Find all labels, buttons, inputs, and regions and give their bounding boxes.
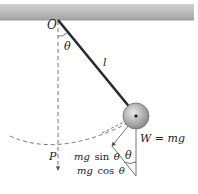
pendulum-string bbox=[58, 20, 136, 115]
pendulum-diagram: O θ l P W = mg θ mg sin θ mg cos θ bbox=[0, 0, 198, 194]
weight-label: W = mg bbox=[140, 132, 185, 145]
length-label: l bbox=[103, 56, 107, 69]
tangential-component-label: mg sin θ bbox=[74, 151, 120, 162]
angle-bottom-label: θ bbox=[125, 149, 132, 162]
point-label: P bbox=[48, 150, 57, 163]
angle-top-label: θ bbox=[64, 40, 71, 53]
bob-center-dot bbox=[134, 114, 137, 117]
radial-component-label: mg cos θ bbox=[77, 165, 125, 176]
swing-arc-path bbox=[10, 124, 126, 145]
ceiling-support bbox=[0, 4, 194, 20]
angle-arc-top bbox=[58, 33, 67, 36]
pivot-label: O bbox=[47, 18, 57, 32]
